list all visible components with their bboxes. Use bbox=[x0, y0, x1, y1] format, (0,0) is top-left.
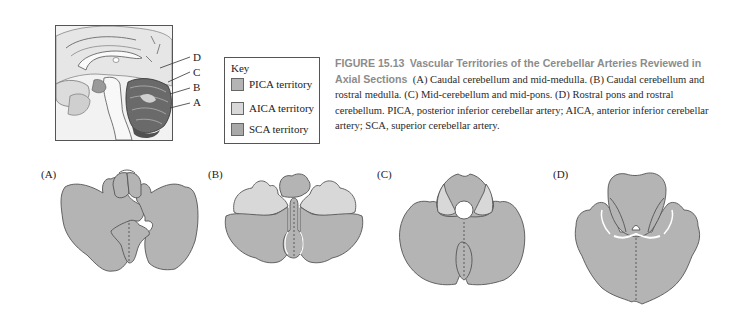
level-label-a: A bbox=[193, 96, 201, 108]
pica-swatch-icon bbox=[231, 78, 244, 91]
level-label-c: C bbox=[193, 66, 200, 78]
section-label-c: (C) bbox=[377, 168, 392, 180]
figure-number: FIGURE 15.13 bbox=[335, 57, 404, 69]
axial-section-d bbox=[572, 170, 702, 312]
axial-section-c bbox=[396, 170, 531, 292]
legend-label-sca: SCA territory bbox=[249, 123, 309, 135]
figure-caption: FIGURE 15.13 Vascular Territories of the… bbox=[335, 56, 720, 134]
legend-title: Key bbox=[231, 62, 249, 74]
axial-section-a bbox=[45, 165, 205, 280]
legend-item-pica: PICA territory bbox=[231, 76, 312, 92]
section-label-d: (D) bbox=[553, 168, 568, 180]
section-level-lines bbox=[150, 50, 210, 110]
legend-item-sca: SCA territory bbox=[231, 121, 309, 137]
section-label-b: (B) bbox=[208, 168, 223, 180]
level-line-b bbox=[170, 88, 190, 94]
axial-section-b bbox=[222, 170, 367, 265]
section-a-olive-right bbox=[127, 173, 141, 198]
legend-label-aica: AICA territory bbox=[249, 102, 314, 114]
legend-label-pica: PICA territory bbox=[249, 78, 312, 90]
legend-key: Key PICA territory AICA territory SCA te… bbox=[224, 57, 320, 144]
section-a-right-hemisphere bbox=[136, 184, 198, 270]
level-label-b: B bbox=[193, 81, 200, 93]
level-line-c bbox=[168, 72, 190, 82]
level-line-a bbox=[170, 103, 190, 108]
section-b-right-pica bbox=[298, 207, 363, 262]
level-label-d: D bbox=[193, 51, 201, 63]
aica-swatch-icon bbox=[231, 102, 244, 115]
section-a-olive-left bbox=[113, 173, 129, 198]
section-b-vermis bbox=[280, 174, 310, 197]
section-c-fourth-ventricle bbox=[455, 201, 473, 219]
section-b-left-pica bbox=[225, 207, 290, 262]
legend-item-aica: AICA territory bbox=[231, 100, 314, 116]
sca-swatch-icon bbox=[231, 123, 244, 136]
level-line-d bbox=[160, 57, 190, 68]
